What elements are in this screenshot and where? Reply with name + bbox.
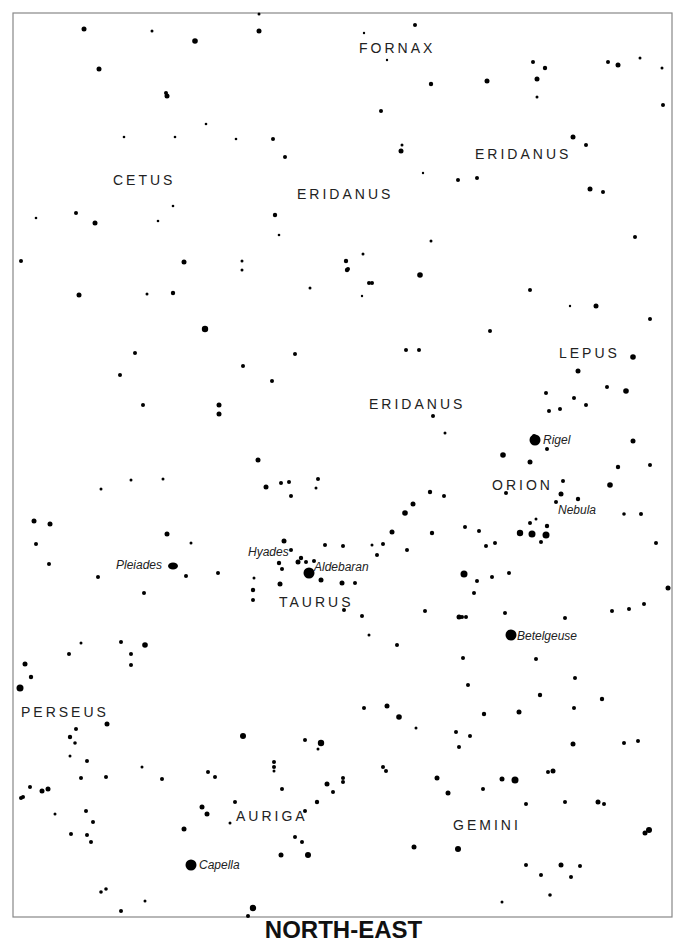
- star: [340, 581, 345, 586]
- star: [273, 770, 276, 773]
- star: [84, 809, 88, 813]
- star: [501, 901, 504, 904]
- star: [578, 864, 582, 868]
- star: [241, 260, 244, 263]
- star: [411, 502, 416, 507]
- star: [543, 66, 547, 70]
- star: [241, 364, 245, 368]
- star: [639, 57, 642, 60]
- star: [74, 727, 78, 731]
- star: [490, 575, 494, 579]
- star: [80, 642, 83, 645]
- star: [130, 479, 133, 482]
- star: [390, 530, 395, 535]
- star: [280, 787, 284, 791]
- star: [482, 712, 486, 716]
- star: [543, 532, 550, 539]
- star: [381, 765, 385, 769]
- star: [558, 407, 562, 411]
- star: [142, 591, 146, 595]
- star: [636, 739, 640, 743]
- star: [303, 738, 307, 742]
- star: [229, 822, 232, 825]
- star: [466, 683, 470, 687]
- object-label-capella: Capella: [199, 858, 240, 872]
- star: [546, 770, 550, 774]
- star: [484, 544, 488, 548]
- star: [278, 582, 283, 587]
- star: [571, 135, 576, 140]
- star: [19, 259, 23, 263]
- star: [73, 741, 77, 745]
- constellation-label-lepus: LEPUS: [559, 345, 620, 361]
- constellation-label-auriga: AURIGA: [236, 808, 308, 824]
- star: [572, 706, 576, 710]
- star: [165, 532, 170, 537]
- object-label-hyades: Hyades: [248, 545, 289, 559]
- star: [251, 588, 255, 592]
- star: [77, 293, 82, 298]
- star: [422, 172, 424, 174]
- star: [524, 863, 528, 867]
- star: [639, 512, 643, 516]
- star-chart: FORNAXCETUSERIDANUSERIDANUSLEPUSERIDANUS…: [0, 0, 687, 948]
- star: [82, 27, 87, 32]
- star: [401, 144, 404, 147]
- star: [551, 769, 556, 774]
- star: [375, 553, 379, 557]
- star: [146, 293, 149, 296]
- star: [317, 748, 320, 751]
- star: [405, 548, 409, 552]
- star: [642, 602, 646, 606]
- star: [142, 642, 148, 648]
- star: [171, 291, 175, 295]
- star: [415, 727, 418, 730]
- star: [257, 29, 262, 34]
- star: [528, 460, 533, 465]
- star: [573, 676, 577, 680]
- star: [67, 652, 71, 656]
- star: [205, 812, 210, 817]
- star: [240, 733, 246, 739]
- star: [633, 235, 637, 239]
- star: [316, 477, 320, 481]
- star: [602, 802, 606, 806]
- star: [280, 567, 284, 571]
- constellation-label-taurus: TAURUS: [279, 594, 354, 610]
- star: [423, 609, 427, 613]
- star: [251, 598, 255, 602]
- star: [534, 657, 538, 661]
- star: [385, 704, 390, 709]
- star: [631, 439, 636, 444]
- star: [610, 609, 614, 613]
- star: [477, 529, 481, 533]
- star: [68, 735, 72, 739]
- star: [206, 770, 210, 774]
- star: [517, 530, 523, 536]
- star: [293, 835, 297, 839]
- star: [258, 13, 261, 16]
- star: [253, 577, 256, 580]
- star: [54, 813, 57, 816]
- star: [545, 447, 549, 451]
- object-label-rigel: Rigel: [543, 433, 571, 447]
- star: [545, 524, 549, 528]
- star: [561, 479, 565, 483]
- star: [360, 614, 364, 618]
- star: [547, 409, 551, 413]
- star: [264, 485, 269, 490]
- star: [277, 561, 281, 565]
- star: [200, 805, 205, 810]
- star: [182, 827, 187, 832]
- star: [503, 611, 507, 615]
- star: [507, 571, 511, 575]
- star: [529, 531, 536, 538]
- star: [184, 574, 188, 578]
- star: [539, 540, 543, 544]
- star: [386, 59, 388, 61]
- object-label-pleiades: Pleiades: [116, 558, 162, 572]
- star: [661, 103, 665, 107]
- star: [362, 706, 366, 710]
- star: [454, 730, 458, 734]
- star: [296, 560, 301, 565]
